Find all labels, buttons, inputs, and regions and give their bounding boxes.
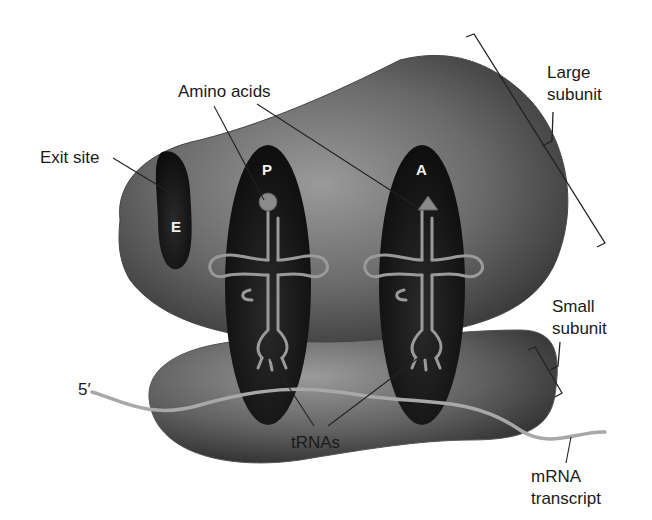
mrna-label-line1: mRNA — [531, 467, 581, 486]
trnas-label: tRNAs — [291, 433, 340, 452]
five-prime-label: 5′ — [78, 380, 91, 399]
small-subunit-shape — [149, 330, 557, 463]
mrna-label-line2: transcript — [531, 489, 601, 508]
e-site-label: E — [171, 218, 181, 235]
small-subunit-label-line2: subunit — [552, 319, 607, 338]
large-subunit-label-line1: Large — [547, 63, 590, 82]
exit-site-label: Exit site — [40, 148, 100, 167]
large-subunit-label-line2: subunit — [547, 85, 602, 104]
small-subunit-label-line1: Small — [552, 297, 595, 316]
amino-acids-label: Amino acids — [178, 82, 271, 101]
p-site-label: P — [262, 161, 272, 178]
a-site-label: A — [416, 161, 427, 178]
